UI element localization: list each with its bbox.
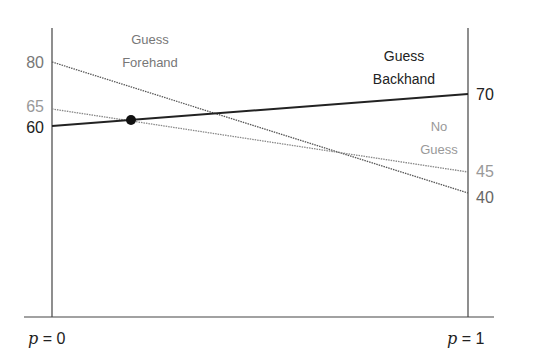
guess-forehand-label-line1: Guess (131, 32, 169, 47)
chart-canvas: 80 65 60 70 45 40 Guess Forehand Guess B… (0, 0, 550, 361)
p0-value: = 0 (38, 330, 65, 347)
guess-backhand-label-line1: Guess (384, 48, 424, 64)
guess-backhand-label-line2: Backhand (373, 71, 435, 87)
guess-backhand-line (52, 94, 468, 126)
x-tick-p0: p = 0 (28, 329, 65, 348)
no-guess-label-line2: Guess (420, 142, 458, 157)
left-label-60: 60 (26, 119, 44, 136)
x-tick-p1: p = 1 (447, 329, 484, 348)
right-label-45: 45 (476, 163, 494, 180)
guess-forehand-label-line2: Forehand (122, 55, 178, 70)
intersection-point (126, 115, 136, 125)
p0-variable: p (28, 329, 38, 348)
left-label-80: 80 (26, 54, 44, 71)
right-label-40: 40 (476, 189, 494, 206)
p1-variable: p (447, 329, 457, 348)
left-label-65: 65 (26, 98, 44, 115)
p1-value: = 1 (457, 330, 484, 347)
no-guess-label-line1: No (431, 119, 448, 134)
right-label-70: 70 (476, 86, 494, 103)
no-guess-line (52, 109, 468, 172)
